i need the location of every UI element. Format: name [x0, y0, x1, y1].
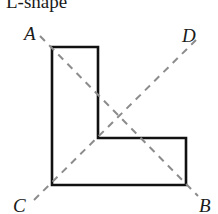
vertex-label-c: C	[13, 196, 26, 214]
vertex-label-a: A	[24, 24, 36, 43]
l-shape-diagram: L-shape A D C B	[0, 0, 218, 214]
vertex-label-b: B	[199, 196, 211, 214]
vertex-label-d: D	[182, 26, 196, 45]
